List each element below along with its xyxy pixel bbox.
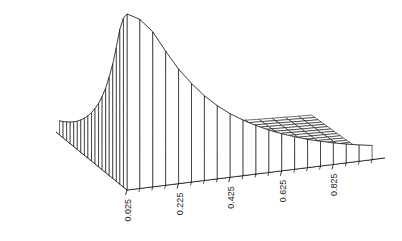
surface-skirt-left: [84, 116, 88, 158]
surface-skirt-front: [243, 120, 256, 175]
surface-skirt-left: [120, 18, 124, 187]
surface-skirt-front: [346, 144, 359, 163]
surface-skirt-front: [140, 19, 153, 188]
surface-skirt-front: [204, 96, 217, 180]
surface-skirt-left: [113, 48, 117, 182]
surface-skirt-front: [256, 126, 269, 174]
surface-skirt-front: [153, 32, 166, 187]
surface-skirt-front: [166, 51, 179, 185]
surface-skirt-left: [60, 121, 64, 138]
surface-skirt-front: [333, 143, 346, 164]
surface-skirt-front: [282, 134, 295, 171]
surface-plot: 0.0250.2250.4250.6250.825: [0, 0, 402, 241]
x-tick-label: 0.425: [226, 186, 236, 209]
x-tick-label: 0.625: [278, 180, 288, 203]
surface-skirt-left: [74, 121, 78, 149]
surface-skirt-front: [295, 137, 308, 169]
surface-skirt-front: [359, 145, 372, 161]
surface-skirt-left: [116, 29, 120, 184]
surface-skirt-left: [92, 108, 96, 163]
surface-skirt-front: [230, 114, 243, 177]
surface-skirt-left: [109, 64, 113, 178]
surface-skirt-front: [192, 83, 205, 182]
surface-skirt-left: [88, 113, 92, 161]
surface-skirt-left: [70, 122, 74, 147]
surface-skirt-front: [127, 14, 140, 190]
surface-skirt-left: [81, 118, 85, 155]
surface-skirt-front: [217, 106, 230, 179]
surface-skirt-front: [308, 139, 321, 167]
surface-skirt-left: [67, 122, 71, 144]
x-tick-label: 0.225: [175, 193, 185, 216]
surface-skirt-left: [123, 14, 127, 190]
figure-canvas: 0.0250.2250.4250.6250.825: [0, 0, 402, 241]
surface-skirt-front: [321, 141, 334, 166]
surface-skirt-front: [269, 130, 282, 172]
surface-skirt-left: [95, 103, 99, 166]
surface-skirt-left: [77, 120, 81, 152]
x-tick-label: 0.025: [123, 199, 133, 222]
surface-skirt-left: [99, 97, 103, 170]
surface-skirt-left: [106, 77, 110, 176]
surface-skirt-left: [63, 122, 67, 141]
x-tick-label: 0.825: [329, 173, 339, 196]
surface-skirt-left: [102, 88, 106, 172]
surface-skirt-front: [179, 69, 192, 183]
